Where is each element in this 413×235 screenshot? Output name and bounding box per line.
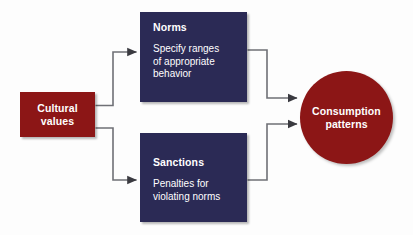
- flow-diagram-canvas: Cultural values Norms Specify ranges of …: [0, 0, 413, 235]
- node-norms-title: Norms: [153, 21, 236, 34]
- edge-norms-to-outcome: [248, 50, 298, 98]
- node-sanctions-description: Penalties for violating norms: [153, 178, 236, 203]
- node-norms-description: Specify ranges of appropriate behavior: [153, 43, 236, 81]
- edge-values-to-norms: [96, 52, 137, 106]
- node-consumption-patterns-title: Consumption patterns: [312, 105, 381, 130]
- node-cultural-values[interactable]: Cultural values: [20, 92, 95, 137]
- edge-values-to-sanctions: [96, 128, 137, 180]
- node-sanctions[interactable]: Sanctions Penalties for violating norms: [140, 133, 247, 222]
- node-consumption-patterns[interactable]: Consumption patterns: [300, 71, 393, 164]
- edge-sanctions-to-outcome: [248, 124, 298, 180]
- node-norms[interactable]: Norms Specify ranges of appropriate beha…: [140, 12, 247, 102]
- node-sanctions-title: Sanctions: [153, 156, 236, 169]
- node-cultural-values-title: Cultural values: [37, 102, 77, 127]
